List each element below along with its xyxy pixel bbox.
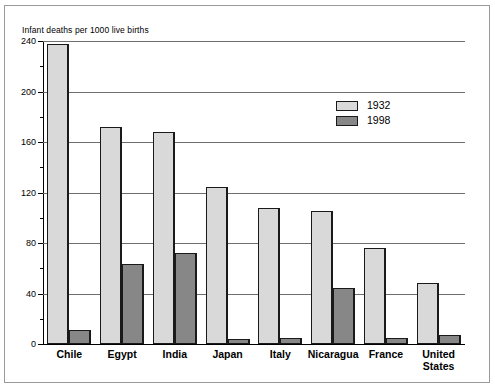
category-label: United States <box>406 349 471 372</box>
bar <box>439 335 461 344</box>
y-tick-label: 40 <box>26 289 36 299</box>
bar-chart: Infant deaths per 1000 live births 04080… <box>0 0 495 389</box>
bar <box>258 208 280 344</box>
bar <box>175 253 197 344</box>
bar <box>206 187 228 344</box>
gridline <box>43 41 465 42</box>
bar <box>417 283 439 344</box>
gridline <box>43 92 465 93</box>
bar <box>386 338 408 344</box>
y-tick-major <box>38 344 43 345</box>
bar <box>100 127 122 344</box>
bar <box>228 339 250 344</box>
legend-item: 1932 <box>336 100 390 111</box>
legend: 19321998 <box>336 100 390 130</box>
plot-area <box>43 41 465 344</box>
x-axis-line <box>43 344 465 345</box>
bar <box>333 288 355 344</box>
bar <box>47 44 69 344</box>
legend-label: 1998 <box>367 115 390 126</box>
bar <box>280 338 302 344</box>
bar <box>364 248 386 344</box>
y-tick-label: 160 <box>21 137 36 147</box>
legend-label: 1932 <box>367 100 390 111</box>
bar <box>311 211 333 344</box>
y-tick-label: 0 <box>31 339 36 349</box>
bar <box>153 132 175 344</box>
y-tick-label: 240 <box>21 36 36 46</box>
y-tick-label: 200 <box>21 87 36 97</box>
legend-item: 1998 <box>336 115 390 126</box>
legend-swatch <box>336 101 358 111</box>
chart-axis-title: Infant deaths per 1000 live births <box>22 25 149 35</box>
y-tick-label: 120 <box>21 188 36 198</box>
y-tick-label: 80 <box>26 238 36 248</box>
bar <box>69 330 91 344</box>
bar <box>122 264 144 344</box>
legend-swatch <box>336 116 358 126</box>
